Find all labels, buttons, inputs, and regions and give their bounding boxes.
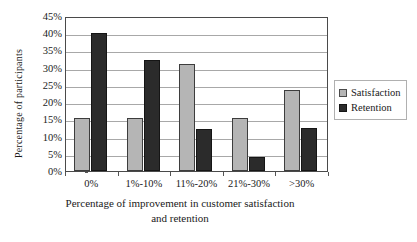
bar-satisfaction-2 bbox=[179, 64, 195, 171]
legend-swatch-satisfaction-icon bbox=[339, 89, 347, 97]
x-axis-title: Percentage of improvement in customer sa… bbox=[20, 196, 340, 226]
y-tick-label: 45% bbox=[22, 12, 62, 22]
y-tick-label: 20% bbox=[22, 98, 62, 108]
bar-group bbox=[276, 18, 329, 171]
chart-legend: Satisfaction Retention bbox=[334, 80, 407, 120]
bar-retention-4 bbox=[301, 128, 317, 171]
bar-retention-2 bbox=[196, 129, 212, 171]
x-tick-mark bbox=[328, 172, 329, 176]
bar-satisfaction-3 bbox=[232, 118, 248, 171]
x-axis-title-line-2: and retention bbox=[20, 211, 340, 226]
bar-satisfaction-1 bbox=[127, 118, 143, 171]
y-tick-label: 0% bbox=[22, 167, 62, 177]
bar-group bbox=[224, 18, 277, 171]
y-tick-label: 10% bbox=[22, 133, 62, 143]
legend-label-satisfaction: Satisfaction bbox=[351, 87, 401, 98]
y-tick-label: 5% bbox=[22, 150, 62, 160]
plot-area bbox=[65, 17, 328, 172]
bar-group bbox=[119, 18, 172, 171]
bar-retention-3 bbox=[249, 157, 265, 171]
bar-satisfaction-4 bbox=[284, 90, 300, 171]
x-axis-title-line-1: Percentage of improvement in customer sa… bbox=[66, 197, 295, 209]
y-tick-label: 35% bbox=[22, 46, 62, 56]
bar-chart: Percentage of participants 0%5%10%15%20%… bbox=[0, 0, 417, 242]
x-tick-mark bbox=[65, 172, 66, 176]
y-tick-mark bbox=[85, 172, 88, 173]
legend-item-retention[interactable]: Retention bbox=[339, 100, 401, 115]
bar-retention-1 bbox=[144, 60, 160, 171]
x-tick-mark bbox=[118, 172, 119, 176]
y-tick-label: 40% bbox=[22, 29, 62, 39]
bar-group bbox=[171, 18, 224, 171]
x-tick-label: >30% bbox=[267, 178, 337, 190]
y-tick-label: 30% bbox=[22, 64, 62, 74]
y-tick-label: 25% bbox=[22, 81, 62, 91]
bar-group bbox=[66, 18, 119, 171]
x-tick-mark bbox=[170, 172, 171, 176]
x-tick-mark bbox=[275, 172, 276, 176]
legend-item-satisfaction[interactable]: Satisfaction bbox=[339, 85, 401, 100]
bar-retention-0 bbox=[91, 33, 107, 171]
x-tick-mark bbox=[223, 172, 224, 176]
legend-label-retention: Retention bbox=[351, 102, 392, 113]
y-tick-label: 15% bbox=[22, 115, 62, 125]
bar-satisfaction-0 bbox=[74, 118, 90, 171]
legend-swatch-retention-icon bbox=[339, 104, 347, 112]
bars-layer bbox=[66, 18, 327, 171]
